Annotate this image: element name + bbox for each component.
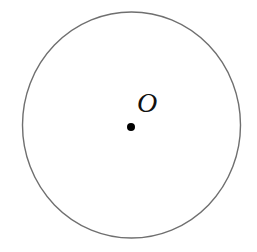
center-point-dot bbox=[127, 123, 135, 131]
diagram-canvas bbox=[0, 0, 257, 252]
circle-diagram: O bbox=[0, 0, 257, 252]
center-label: O bbox=[137, 88, 157, 118]
